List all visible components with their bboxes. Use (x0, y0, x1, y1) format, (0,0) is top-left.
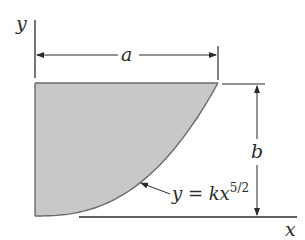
y-axis-label: y (15, 12, 27, 34)
x-axis-label: x (285, 218, 296, 240)
curve-leader-arrow (141, 183, 170, 194)
b-dim-label: b (251, 140, 263, 162)
curve-equation: y = kx5/2 (171, 181, 249, 204)
area-diagram: y x a b y = kx5/2 (0, 0, 305, 240)
curve-eq-exponent: 5/2 (230, 181, 249, 195)
curve-eq-base: y = kx (171, 183, 230, 204)
a-dim-label: a (121, 43, 132, 65)
